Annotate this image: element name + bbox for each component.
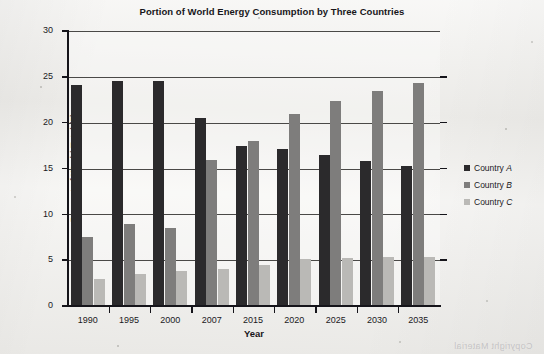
- bar: [413, 83, 424, 306]
- bar: [360, 161, 371, 306]
- y-axis-tick-right: [440, 259, 447, 261]
- x-axis-tick-label: 2015: [243, 315, 263, 325]
- x-axis-tick-label: 1995: [119, 315, 139, 325]
- x-axis-tick-label: 2025: [326, 315, 346, 325]
- bar: [259, 265, 270, 306]
- bar: [112, 81, 123, 306]
- plot-area: 051015202530 199019952000200720152020202…: [68, 31, 440, 306]
- x-axis-tick-label: 1990: [78, 315, 98, 325]
- x-axis-tick: [274, 306, 276, 313]
- scan-speck: [505, 128, 507, 130]
- legend-label: Country C: [474, 197, 512, 207]
- bar: [300, 259, 311, 306]
- bar-group: 2025: [319, 31, 353, 306]
- bar: [372, 91, 383, 306]
- chart-legend: Country ACountry BCountry C: [464, 163, 512, 207]
- legend-item: Country C: [464, 197, 512, 207]
- scan-speck: [399, 341, 401, 343]
- y-axis-tick-label: 5: [48, 254, 53, 264]
- bar-group: 2007: [195, 31, 229, 306]
- bar: [176, 271, 187, 306]
- y-axis-tick-label: 20: [43, 117, 53, 127]
- y-axis-tick-label: 25: [43, 71, 53, 81]
- bar: [135, 274, 146, 306]
- bar: [319, 155, 330, 306]
- x-axis-tick: [109, 306, 111, 313]
- x-axis-tick: [315, 306, 317, 313]
- scan-speck: [14, 196, 16, 198]
- legend-swatch: [464, 165, 470, 171]
- bar: [165, 228, 176, 306]
- x-axis-tick-label: 2007: [202, 315, 222, 325]
- legend-label: Country B: [474, 180, 512, 190]
- bar: [330, 101, 341, 306]
- scan-bleedthrough-text: Copyright Material: [454, 341, 532, 351]
- bar: [153, 81, 164, 306]
- x-axis-tick: [150, 306, 152, 313]
- scanned-page-background: Portion of World Energy Consumption by T…: [0, 0, 544, 354]
- x-axis-tick-label: 2000: [160, 315, 180, 325]
- bar-group: 2020: [277, 31, 311, 306]
- legend-swatch: [464, 199, 470, 205]
- bar-group: 2000: [153, 31, 187, 306]
- bar: [289, 114, 300, 307]
- bar: [401, 166, 412, 306]
- x-axis-tick: [398, 306, 400, 313]
- x-axis-tick-label: 2030: [367, 315, 387, 325]
- y-axis-tick-right: [440, 76, 447, 78]
- legend-item: Country B: [464, 180, 512, 190]
- x-axis-tick: [191, 306, 193, 313]
- bar-group: 2030: [360, 31, 394, 306]
- y-axis-tick-right: [440, 168, 447, 170]
- scan-speck: [258, 17, 260, 19]
- chart-title: Portion of World Energy Consumption by T…: [0, 6, 544, 17]
- bar: [248, 141, 259, 306]
- bar: [383, 257, 394, 306]
- scan-speck: [40, 86, 42, 88]
- bar: [94, 279, 105, 307]
- bar: [277, 149, 288, 306]
- bar: [82, 237, 93, 306]
- y-axis-tick-label: 0: [48, 300, 53, 310]
- bar-group: 2035: [401, 31, 435, 306]
- x-axis-tick-label: 2020: [284, 315, 304, 325]
- bar-group: 2015: [236, 31, 270, 306]
- legend-item: Country A: [464, 163, 512, 173]
- bar: [206, 160, 217, 306]
- bar: [71, 85, 82, 306]
- y-axis-tick-label: 30: [43, 25, 53, 35]
- y-axis-tick-right: [440, 122, 447, 124]
- x-axis-title: Year: [68, 328, 440, 339]
- bar: [236, 146, 247, 306]
- x-axis-line: [67, 305, 441, 307]
- bar-group: 1995: [112, 31, 146, 306]
- y-axis-tick-label: 10: [43, 209, 53, 219]
- bar: [342, 258, 353, 306]
- scan-speck: [117, 345, 119, 347]
- x-axis-tick: [357, 306, 359, 313]
- x-axis-tick-label: 2035: [408, 315, 428, 325]
- bar-group: 1990: [71, 31, 105, 306]
- scan-speck: [486, 300, 488, 302]
- y-axis-tick-label: 15: [43, 163, 53, 173]
- legend-label: Country A: [474, 163, 512, 173]
- scan-speck: [531, 41, 533, 43]
- x-axis-tick: [233, 306, 235, 313]
- bar: [195, 118, 206, 306]
- y-axis-tick-right: [440, 214, 447, 216]
- bar: [124, 224, 135, 307]
- bar: [218, 269, 229, 306]
- legend-swatch: [464, 182, 470, 188]
- y-axis-line: [67, 31, 69, 306]
- bar: [424, 257, 435, 307]
